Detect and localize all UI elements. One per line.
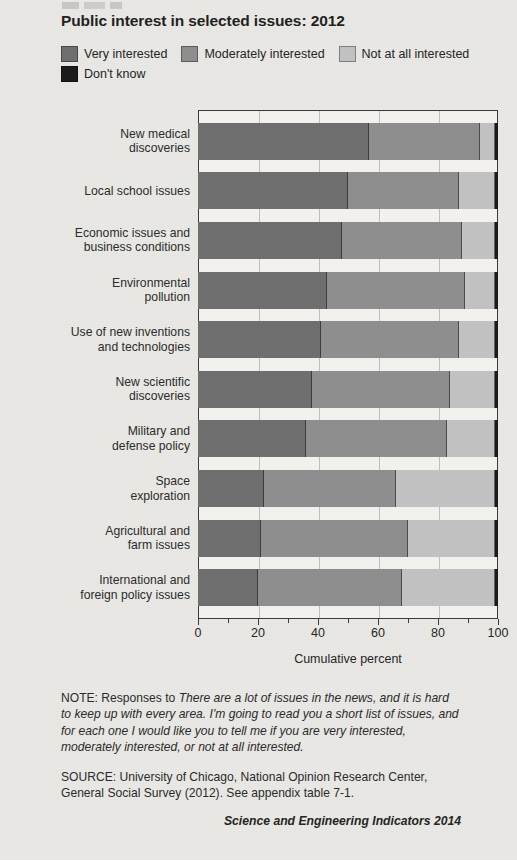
note-prefix: NOTE: Responses to xyxy=(61,691,179,705)
bar-row xyxy=(198,569,498,606)
note-text: NOTE: Responses to There are a lot of is… xyxy=(61,690,461,756)
legend-swatch-icon xyxy=(61,66,78,82)
legend-label: Moderately interested xyxy=(204,47,324,61)
legend-swatch-icon xyxy=(181,46,198,62)
category-label-text: New medicaldiscoveries xyxy=(120,127,190,156)
legend-label: Don't know xyxy=(84,67,145,81)
stacked-bar-chart: New medicaldiscoveriesLocal school issue… xyxy=(0,106,517,646)
category-axis-labels: New medicaldiscoveriesLocal school issue… xyxy=(8,110,190,619)
category-label-text: New scientificdiscoveries xyxy=(116,375,191,404)
bar-segment xyxy=(306,420,447,457)
category-label-text: Economic issues andbusiness conditions xyxy=(75,226,190,255)
category-label: New scientificdiscoveries xyxy=(8,371,190,408)
legend-row-secondary: Don't know xyxy=(61,64,501,84)
legend-item-not-at-all-interested: Not at all interested xyxy=(339,46,470,62)
axis-tick xyxy=(348,619,349,623)
axis-tick xyxy=(288,619,289,623)
bar-segment xyxy=(198,222,342,259)
bar-segment xyxy=(264,470,396,507)
bar-segment xyxy=(495,272,498,309)
axis-tick xyxy=(378,619,379,625)
bar-segment xyxy=(396,470,495,507)
bar-segment xyxy=(495,321,498,358)
bar-segment xyxy=(447,420,495,457)
bar-segment xyxy=(198,172,348,209)
legend-swatch-icon xyxy=(339,46,356,62)
bar-row xyxy=(198,520,498,557)
legend-item-very-interested: Very interested xyxy=(61,46,167,62)
bar-segment xyxy=(408,520,495,557)
bar-segment xyxy=(495,222,498,259)
bar-segment xyxy=(495,420,498,457)
bar-segment xyxy=(495,172,498,209)
figure-page: Public interest in selected issues: 2012… xyxy=(0,0,517,860)
bar-row xyxy=(198,371,498,408)
page-title: Public interest in selected issues: 2012 xyxy=(61,12,345,30)
publication-credit: Science and Engineering Indicators 2014 xyxy=(61,814,461,828)
bar-segment xyxy=(312,371,450,408)
bar-segment xyxy=(495,520,498,557)
axis-tick-label: 40 xyxy=(311,626,325,640)
category-label-text: Agricultural andfarm issues xyxy=(105,524,190,553)
bar-segment xyxy=(465,272,495,309)
bar-segment xyxy=(459,321,495,358)
category-label: Local school issues xyxy=(8,172,190,209)
category-label-text: Local school issues xyxy=(84,184,190,199)
axis-tick xyxy=(408,619,409,623)
axis-tick xyxy=(498,619,499,625)
axis-tick xyxy=(228,619,229,623)
category-label: Environmentalpollution xyxy=(8,272,190,309)
bar-segment xyxy=(321,321,459,358)
bar-segment xyxy=(327,272,465,309)
bar-segment xyxy=(462,222,495,259)
bar-segment xyxy=(198,420,306,457)
axis-tick xyxy=(318,619,319,625)
legend-item-moderately-interested: Moderately interested xyxy=(181,46,324,62)
source-text: SOURCE: University of Chicago, National … xyxy=(61,769,461,802)
figure-number-stub xyxy=(62,2,122,9)
bar-segment xyxy=(495,123,498,160)
category-label: Economic issues andbusiness conditions xyxy=(8,222,190,259)
category-label-text: Spaceexploration xyxy=(130,474,190,503)
bar-segment xyxy=(198,470,264,507)
axis-tick-label: 0 xyxy=(195,626,202,640)
axis-tick-label: 100 xyxy=(488,626,509,640)
legend-label: Not at all interested xyxy=(362,47,470,61)
bar-row xyxy=(198,222,498,259)
axis-tick-label: 60 xyxy=(371,626,385,640)
bar-segment xyxy=(495,371,498,408)
legend-item-dont-know: Don't know xyxy=(61,66,145,82)
category-label-text: Military anddefense policy xyxy=(112,424,190,453)
x-axis-title: Cumulative percent xyxy=(198,652,498,666)
axis-tick xyxy=(198,619,199,625)
bar-segment xyxy=(459,172,495,209)
bar-row xyxy=(198,470,498,507)
bar-segment xyxy=(198,520,261,557)
category-label: Military anddefense policy xyxy=(8,420,190,457)
bar-segment xyxy=(348,172,459,209)
bar-row xyxy=(198,172,498,209)
bar-row xyxy=(198,272,498,309)
bar-segment xyxy=(369,123,480,160)
bar-segment xyxy=(342,222,462,259)
axis-tick xyxy=(438,619,439,625)
bar-row xyxy=(198,321,498,358)
category-label: Spaceexploration xyxy=(8,470,190,507)
legend-label: Very interested xyxy=(84,47,167,61)
bar-segment xyxy=(495,569,498,606)
bar-segment xyxy=(198,123,369,160)
axis-tick xyxy=(468,619,469,623)
legend-row-primary: Very interested Moderately interested No… xyxy=(61,44,501,64)
axis-tick-label: 80 xyxy=(431,626,445,640)
bar-segment xyxy=(480,123,495,160)
category-label: Agricultural andfarm issues xyxy=(8,520,190,557)
axis-tick xyxy=(258,619,259,625)
category-label-text: Use of new inventionsand technologies xyxy=(71,325,190,354)
bar-row xyxy=(198,420,498,457)
figure-footer: NOTE: Responses to There are a lot of is… xyxy=(61,690,461,828)
bar-segment xyxy=(198,371,312,408)
category-label: New medicaldiscoveries xyxy=(8,123,190,160)
bar-rows xyxy=(198,110,498,619)
bar-segment xyxy=(258,569,402,606)
legend: Very interested Moderately interested No… xyxy=(61,44,501,84)
